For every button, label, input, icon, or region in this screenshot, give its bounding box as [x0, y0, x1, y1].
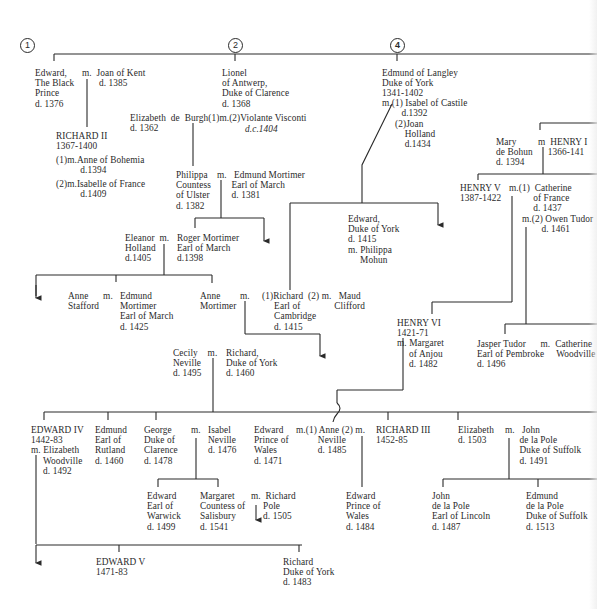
person-anne-stafford: Anne m. Stafford	[68, 291, 113, 311]
person-eleanor-holland: Eleanor m. Holland d.1405	[125, 233, 169, 264]
person-henry-vi: HENRY VI 1421-71 m. Margaret of Anjou d.…	[397, 318, 444, 369]
person-lionel: Lionel of Antwerp, Duke of Clarence d. 1…	[222, 68, 289, 109]
person-philippa: Philippa Countess of Ulster d. 1382	[176, 170, 211, 211]
person-richard-earl-of-cambridge: (1)Richard (2) m. Maud Earl of Clifford …	[262, 291, 365, 332]
person-george-clarence: George Duke of Clarence d. 1478	[144, 425, 178, 466]
person-richard-duke-of-york-1483: Richard Duke of York d. 1483	[283, 557, 335, 588]
person-henry-v: HENRY V 1387-1422	[460, 183, 501, 203]
generation-marker-1: 1	[20, 38, 35, 53]
marriage-isabel-of-castile: m.(1) Isabel of Castile d.1392	[382, 98, 467, 118]
person-margaret-salisbury: Margaret Countess of Salisbury d. 1541	[200, 491, 245, 532]
person-catherine-of-france: m.(1) Catherine of France d. 1437	[509, 183, 572, 214]
person-elizabeth-de-burgh: Elizabeth de Burgh(1)m.(2)Violante Visco…	[130, 113, 307, 133]
person-edward-duke-of-york: Edward, Duke of York d. 1415 m. Philippa…	[348, 214, 400, 265]
person-edward-v: EDWARD V 1471-83	[96, 557, 145, 577]
person-roger-mortimer: Roger Mortimer Earl of March d.1398	[177, 233, 239, 264]
person-isabel-neville: m. Isabel Neville d. 1476	[191, 425, 237, 456]
person-henry-iv: m HENRY I 1366-141	[538, 137, 587, 157]
person-mary-de-bohun: Mary de Bohun d. 1394	[496, 137, 533, 168]
person-edward-iv: EDWARD IV 1442-83 m. Elizabeth Woodville…	[31, 425, 84, 476]
person-violante-death: d.c.1404	[245, 124, 278, 134]
person-edward-prince-1484: Edward Prince of Wales d. 1484	[346, 491, 381, 532]
person-richard-ii: RICHARD II 1367-1400	[56, 131, 107, 151]
page-edge-shadow	[589, 0, 597, 609]
person-jasper-tudor: Jasper Tudor m. Catherine Earl of Pembro…	[477, 339, 596, 370]
person-richard-iii: RICHARD III 1452-85	[376, 425, 431, 445]
person-richard-pole: m. Richard Pole d. 1505	[251, 491, 296, 522]
person-owen-tudor: m.(2) Owen Tudor d. 1461	[522, 214, 593, 234]
generation-marker-4: 4	[390, 38, 405, 53]
person-richard-duke-of-york: Richard, Duke of York d. 1460	[226, 348, 278, 379]
person-edmund-mortimer-1381: m. Edmund Mortimer Earl of March d. 1381	[217, 170, 305, 201]
person-edmund-de-la-pole: Edmund de la Pole Duke of Suffolk d. 151…	[526, 491, 588, 532]
person-edmund-mortimer-1425: Edmund Mortimer Earl of March d. 1425	[120, 291, 173, 332]
person-anne-neville: m.(1) Anne (2) m. Neville d. 1485	[296, 425, 365, 456]
person-john-de-la-pole-1487: John de la Pole Earl of Lincoln d. 1487	[432, 491, 490, 532]
person-edward-earl-of-warwick: Edward Earl of Warwick d. 1499	[147, 491, 181, 532]
generation-marker-2: 2	[228, 38, 243, 53]
person-anne-mortimer: Anne m. Mortimer	[200, 291, 250, 311]
person-cecily-neville: Cecily m. Neville d. 1495	[173, 348, 217, 379]
marriage-anne-of-bohemia: (1)m.Anne of Bohemia d.1394	[56, 155, 145, 175]
person-edmund-rutland: Edmund Earl of Rutland d. 1460	[95, 425, 127, 466]
person-john-de-la-pole-1491: m. John de la Pole Duke of Suffolk d. 14…	[505, 425, 581, 466]
person-elizabeth-1503: Elizabeth d. 1503	[458, 425, 494, 445]
person-edmund-of-langley: Edmund of Langley Duke of York 1341-1402	[382, 68, 458, 99]
person-joan-of-kent: m. Joan of Kent d. 1385	[82, 68, 145, 88]
person-edward-black-prince: Edward, The Black Prince d. 1376	[35, 68, 74, 109]
marriage-joan-holland: (2)Joan Holland d.1434	[395, 119, 435, 150]
person-edward-prince-1471: Edward Prince of Wales d. 1471	[254, 425, 289, 466]
marriage-isabelle-of-france: (2)m.Isabelle of France d.1409	[56, 179, 145, 199]
